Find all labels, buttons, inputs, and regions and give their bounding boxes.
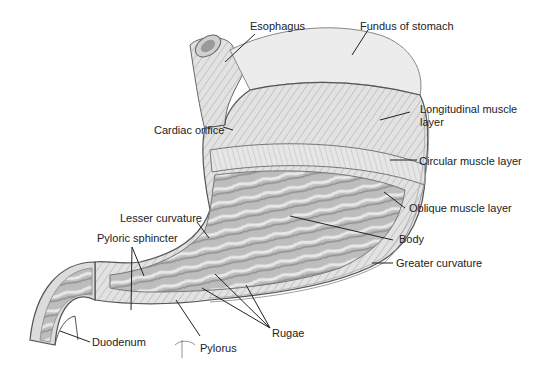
label-esophagus: Esophagus	[250, 20, 305, 33]
label-fundus-of-stomach: Fundus of stomach	[360, 20, 454, 33]
label-duodenum: Duodenum	[92, 336, 146, 349]
artist-signature	[175, 340, 195, 358]
label-rugae: Rugae	[272, 327, 304, 340]
label-body: Body	[399, 233, 424, 246]
label-cardiac-orifice: Cardiac orifice	[154, 124, 224, 137]
label-oblique-muscle-layer: Oblique muscle layer	[409, 202, 512, 215]
stomach-diagram: Esophagus Fundus of stomach Longitudinal…	[0, 0, 533, 379]
label-greater-curvature: Greater curvature	[396, 257, 482, 270]
label-circular-muscle-layer: Circular muscle layer	[419, 155, 522, 168]
label-lesser-curvature: Lesser curvature	[120, 212, 202, 225]
duodenum-shape	[30, 262, 95, 345]
stomach-illustration	[0, 0, 533, 379]
label-longitudinal-line2: layer	[420, 116, 517, 129]
label-longitudinal-muscle-layer: Longitudinal muscle layer	[420, 103, 517, 129]
label-pyloric-sphincter: Pyloric sphincter	[97, 232, 178, 245]
label-longitudinal-line1: Longitudinal muscle	[420, 103, 517, 116]
label-pylorus: Pylorus	[200, 342, 237, 355]
